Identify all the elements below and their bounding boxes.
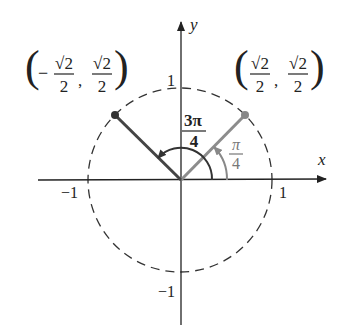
point-left (111, 111, 119, 119)
svg-text:2: 2 (294, 77, 303, 96)
x-axis-label: x (317, 150, 326, 169)
svg-text:2: 2 (60, 77, 69, 96)
svg-text:): ) (114, 42, 129, 91)
tick-y-neg: −1 (158, 283, 175, 300)
svg-text:√2: √2 (93, 54, 111, 73)
arc-pi-over-4 (214, 147, 227, 180)
svg-text:4: 4 (190, 132, 199, 151)
tick-x-pos: 1 (279, 184, 287, 201)
svg-text:√2: √2 (289, 54, 307, 73)
unit-circle-diagram: x y 1 −1 1 −1 3π 4 π 4 ( − √2 2 , √2 2 )… (0, 0, 345, 329)
svg-text:2: 2 (98, 77, 107, 96)
svg-text:4: 4 (232, 155, 240, 172)
svg-text:,: , (78, 71, 82, 90)
svg-text:): ) (310, 42, 325, 91)
tick-x-neg: −1 (61, 184, 78, 201)
tick-y-pos: 1 (167, 72, 175, 89)
svg-text:2: 2 (256, 77, 265, 96)
point-right (241, 111, 249, 119)
svg-text:(: ( (234, 42, 249, 91)
ray-3pi-over-4 (115, 115, 181, 180)
y-axis-label: y (188, 15, 198, 34)
point-left-label: ( − √2 2 , √2 2 ) (25, 42, 129, 96)
point-right-label: ( √2 2 , √2 2 ) (234, 42, 325, 96)
svg-text:π: π (232, 136, 241, 153)
svg-text:−: − (38, 63, 48, 83)
angle-label-pi-over-4: π 4 (229, 136, 243, 172)
svg-text:√2: √2 (251, 54, 269, 73)
svg-text:,: , (274, 71, 278, 90)
svg-text:√2: √2 (55, 54, 73, 73)
angle-label-3pi-over-4: 3π 4 (182, 111, 206, 151)
svg-text:3π: 3π (184, 111, 203, 130)
